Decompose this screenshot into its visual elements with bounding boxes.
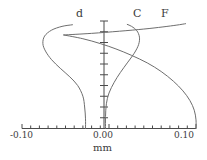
aberration-plot: d C F -0.10 0.00 0.10 mm [0, 0, 207, 160]
x-axis-group [22, 124, 196, 129]
curve-label-f: F [161, 8, 169, 19]
x-tick-label-zero: 0.00 [93, 131, 113, 140]
x-tick-label-positive: 0.10 [174, 131, 194, 140]
curves-group [43, 24, 196, 129]
curve-f-upper [64, 24, 186, 35]
y-axis-group [100, 21, 108, 129]
curve-c [105, 24, 139, 128]
curve-label-d: d [76, 8, 83, 19]
x-axis-title: mm [93, 143, 112, 153]
curve-f [64, 35, 196, 129]
curve-d [43, 25, 86, 129]
x-tick-label-negative: -0.10 [10, 131, 33, 140]
curve-label-c: C [133, 8, 141, 19]
x-axis-tick-marks [22, 124, 196, 129]
